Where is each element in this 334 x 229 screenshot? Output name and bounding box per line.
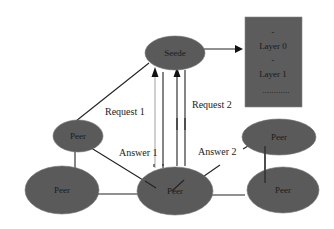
layer-box-dot-1: - [272, 27, 275, 37]
layer-box-ellipsis: ............ [263, 85, 290, 95]
layer-box-dot-2: - [272, 55, 275, 65]
request-1-arrowhead-icon [152, 67, 159, 77]
label-answer-2: Answer 2 [198, 146, 237, 157]
node-peer-right-top: Peer [242, 119, 316, 155]
p2p-layer-diagram: - Layer 0 - Layer 1 ............ Seede P… [0, 0, 334, 229]
node-peer-top-left: Peer [53, 120, 103, 152]
node-peer-right-bottom-label: Peer [275, 185, 291, 195]
node-peer-bottom-center: Peer [137, 167, 213, 215]
node-peer-right-top-label: Peer [271, 132, 287, 142]
node-peer-right-bottom: Peer [247, 167, 319, 213]
node-peer-bottom-left: Peer [25, 166, 99, 214]
node-peer-top-left-label: Peer [70, 131, 86, 141]
node-seede-label: Seede [164, 48, 186, 58]
label-request-1: Request 1 [105, 106, 145, 117]
layer-box-layer-0: Layer 0 [259, 41, 287, 51]
label-answer-1: Answer 1 [119, 147, 158, 158]
label-request-2: Request 2 [192, 99, 232, 110]
node-peer-bottom-left-label: Peer [54, 185, 70, 195]
layer-box-layer-1: Layer 1 [259, 69, 287, 79]
node-seede: Seede [145, 36, 205, 70]
node-peer-bottom-center-label: Peer [167, 186, 183, 196]
